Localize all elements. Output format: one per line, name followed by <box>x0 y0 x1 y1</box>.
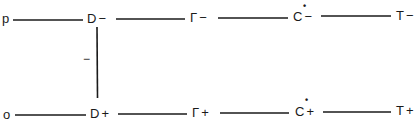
node-sign: + <box>306 104 314 119</box>
excited-marker-icon: • <box>303 2 306 11</box>
node-d-plus: D+ <box>90 107 109 120</box>
node-gamma-minus: Γ− <box>190 11 207 24</box>
state-diagram: p D− Γ− C− • T− − o D+ Γ+ C+ • T+ <box>0 0 417 124</box>
node-gamma-plus: Γ+ <box>192 106 209 119</box>
node-symbol: Γ <box>192 105 199 120</box>
excited-marker-icon: • <box>305 96 308 105</box>
node-sign: + <box>101 106 109 121</box>
node-symbol: T <box>396 103 404 118</box>
node-symbol: D <box>90 106 99 121</box>
start-label-bottom: o <box>3 108 10 121</box>
edge-d-minus-to-d-plus <box>97 27 98 98</box>
node-sign: + <box>201 105 209 120</box>
node-t-plus: T+ <box>396 104 414 117</box>
node-sign: + <box>406 103 414 118</box>
node-sign: − <box>406 8 414 23</box>
node-d-minus: D− <box>87 12 106 25</box>
node-symbol: C <box>295 104 304 119</box>
node-c-minus: C− • <box>293 10 312 23</box>
start-label-top: p <box>2 12 9 25</box>
node-sign: − <box>199 10 207 25</box>
node-sign: − <box>304 9 312 24</box>
node-symbol: T <box>396 8 404 23</box>
vertical-link-label: − <box>83 53 90 65</box>
node-t-minus: T− <box>396 9 414 22</box>
node-symbol: C <box>293 9 302 24</box>
node-symbol: D <box>87 11 96 26</box>
node-c-plus: C+ • <box>295 105 314 118</box>
node-symbol: Γ <box>190 10 197 25</box>
node-sign: − <box>98 11 106 26</box>
